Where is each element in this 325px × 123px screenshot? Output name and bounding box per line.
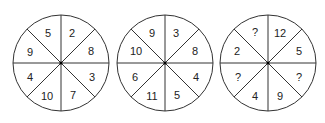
sector-value: 3 xyxy=(173,27,179,39)
wheel-2: 3 8 4 5 11 6 10 9 xyxy=(117,15,213,111)
sector-value: 5 xyxy=(174,89,180,101)
number-wheel-puzzle: 2 8 3 7 10 4 9 5 3 8 4 5 11 6 10 9 12 5 … xyxy=(0,0,325,123)
sector-value: 5 xyxy=(45,27,51,39)
sector-value: ? xyxy=(235,71,241,83)
sector-value: 2 xyxy=(69,27,75,39)
sector-value: 9 xyxy=(149,27,155,39)
sector-value: 2 xyxy=(234,45,240,57)
sector-value: 8 xyxy=(88,45,94,57)
sector-value: 4 xyxy=(193,71,199,83)
sector-value: 8 xyxy=(192,45,198,57)
sector-value: 9 xyxy=(277,90,283,102)
sector-value: 4 xyxy=(252,90,258,102)
sector-value: 6 xyxy=(132,71,138,83)
wheel-1: 2 8 3 7 10 4 9 5 xyxy=(13,15,109,111)
sector-value: 10 xyxy=(41,90,53,102)
sector-value: 5 xyxy=(296,45,302,57)
sector-value: ? xyxy=(252,26,258,38)
sector-value: ? xyxy=(296,71,302,83)
sector-value: 7 xyxy=(70,89,76,101)
sector-value: 11 xyxy=(146,90,157,102)
sector-value: 4 xyxy=(27,71,33,83)
sector-value: 10 xyxy=(130,45,142,57)
sector-value: 12 xyxy=(274,27,286,39)
center-dot xyxy=(267,62,270,65)
wheel-3: 12 5 ? 9 4 ? 2 ? xyxy=(220,15,316,111)
sector-value: 9 xyxy=(27,46,33,58)
sector-value: 3 xyxy=(89,71,95,83)
center-dot xyxy=(60,62,63,65)
center-dot xyxy=(164,62,167,65)
